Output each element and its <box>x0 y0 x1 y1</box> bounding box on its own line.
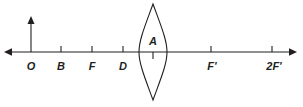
label-point-two-f-prime: 2F' <box>265 60 282 72</box>
principal-axis-group <box>4 48 297 56</box>
label-point-b: B <box>57 60 65 72</box>
label-lens-a: A <box>148 35 157 47</box>
label-point-d: D <box>119 60 127 72</box>
diagram-canvas: O B F D F' 2F' A <box>0 0 303 107</box>
label-point-f-prime: F' <box>207 60 217 72</box>
vertical-axis-up-arrow-icon <box>28 16 35 24</box>
vertical-axis-group <box>28 16 35 52</box>
label-point-f: F <box>89 60 96 72</box>
principal-axis-right-arrow-icon <box>289 48 297 56</box>
principal-axis-left-arrow-icon <box>4 48 12 56</box>
label-point-o: O <box>27 60 36 72</box>
optics-lens-diagram: O B F D F' 2F' A <box>0 0 303 107</box>
